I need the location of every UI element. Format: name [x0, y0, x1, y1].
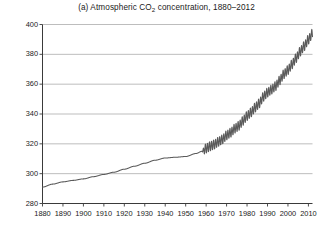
y-tick-label: 400	[6, 20, 38, 29]
y-tick-label: 380	[6, 49, 38, 58]
y-tick-label: 340	[6, 109, 38, 118]
gridlines	[43, 25, 313, 174]
co2-chart-figure: (a) Atmospheric CO2 concentration, 1880–…	[0, 0, 333, 233]
y-tick-label: 320	[6, 139, 38, 148]
y-tick-label: 300	[6, 169, 38, 178]
y-tick-label: 280	[6, 199, 38, 208]
co2-data-line	[43, 29, 313, 187]
y-tick-label: 360	[6, 79, 38, 88]
plot-area	[0, 0, 333, 233]
x-tick-label: 2010	[295, 209, 321, 218]
